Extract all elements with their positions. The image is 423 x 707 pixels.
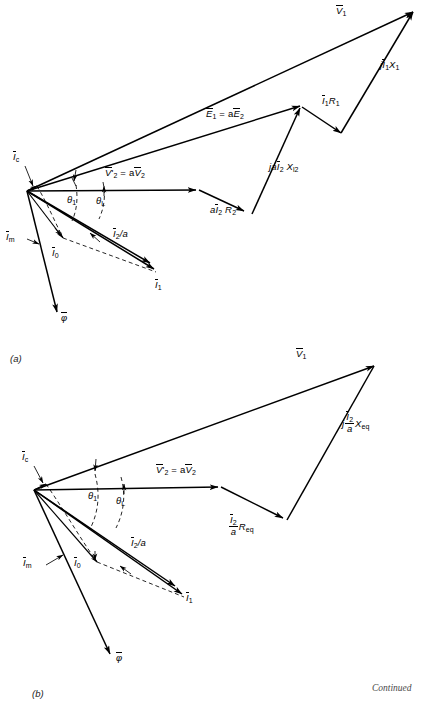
caption-b: (b) — [32, 688, 44, 699]
vector-ji1x1-a — [341, 12, 413, 133]
label-v1-a: V1 — [336, 6, 346, 17]
construction-dash-i0-i1-b — [97, 562, 184, 597]
continued-note: Continued — [372, 683, 412, 693]
vector-i1r1-a — [302, 107, 341, 133]
label-thetaL-a: θL — [96, 196, 105, 207]
vector-i1-a — [27, 191, 154, 269]
caption-a: (a) — [10, 353, 22, 364]
leader-i2a-b — [120, 566, 131, 574]
label-v1-b: V1 — [296, 349, 306, 360]
label-e1-ae2-a: E1 = aE2 — [206, 109, 244, 120]
label-i0-a: I0 — [52, 248, 59, 259]
vector-phi-b — [34, 490, 110, 654]
leader-theta1-arrow-b — [95, 459, 96, 471]
label-i1r1-a: I1R1 — [322, 96, 340, 107]
label-ji1x1-a: jI1X1 — [380, 60, 400, 71]
diagram-a-vectors — [25, 12, 413, 312]
construction-dash-i0-i1-a — [63, 238, 156, 272]
vector-v1-a — [27, 12, 413, 191]
label-i1-a: I1 — [155, 280, 162, 291]
label-ic-a: Ic — [13, 152, 19, 163]
label-phi-a: φ — [61, 313, 67, 323]
vector-i1-b — [34, 490, 182, 594]
vector-v2prime-a — [27, 190, 196, 191]
vector-v1-b — [34, 366, 374, 490]
leader-im-b — [46, 555, 63, 565]
label-im-a: Im — [6, 232, 15, 243]
label-ic-b: Ic — [22, 452, 28, 463]
label-v2prime-b: V'2 = aV2 — [156, 465, 196, 476]
leader-ic-a — [25, 166, 33, 186]
label-i2a-req-b: I2aReq — [228, 515, 254, 536]
label-v2prime-a: V'2 = aV2 — [105, 168, 145, 179]
label-phi-b: φ — [116, 653, 122, 663]
vector-v2prime-b — [34, 487, 218, 490]
label-i1-b: I1 — [186, 593, 193, 604]
diagram-b-vectors — [34, 366, 374, 654]
leader-ic-b — [34, 466, 43, 483]
vector-e1-a — [27, 106, 300, 191]
label-j-i2a-xeq-b: jI2aXeq — [342, 412, 369, 433]
label-ai2r2-a: aI2 R2 — [210, 205, 236, 216]
label-jai2xl2-a: jaI2 Xl2 — [269, 162, 298, 173]
phasor-diagram-canvas — [0, 0, 423, 707]
label-theta1-a: θ1 — [67, 195, 76, 206]
label-i0-b: I0 — [74, 558, 81, 569]
vector-j-i2a-xeq-b — [287, 366, 374, 520]
figure-root: V1 jI1X1 I1R1 E1 = aE2 jaI2 Xl2 aI2 R2 V… — [0, 0, 423, 707]
label-thetaL-b: θL — [116, 496, 125, 507]
leader-im-a — [27, 239, 39, 244]
label-im-b: Im — [23, 558, 32, 569]
label-i2-over-a-b: I2/a — [131, 538, 146, 549]
label-theta1-b: θ1 — [88, 491, 97, 502]
label-i2-over-a-a: I2/a — [113, 229, 128, 240]
construction-dash-ic-i0-a — [37, 186, 63, 238]
